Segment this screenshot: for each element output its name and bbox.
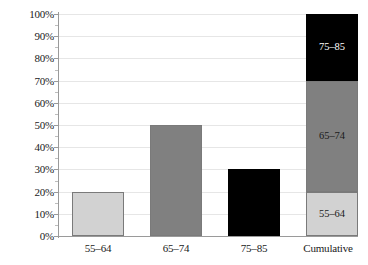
y-tick-30 [54,169,59,170]
bar-segment-label-55-64: 55–64 [319,209,345,220]
bar-75-85 [228,169,280,236]
bar-65-74 [150,125,202,236]
axis-baseline [58,236,358,237]
bar-chart: 75–85 65–74 55–64 100% 90% 80% 70% 60% 5… [0,0,368,265]
y-tick-20 [54,192,59,193]
y-axis-label-100: 100% [8,9,54,20]
y-axis-label-70: 70% [8,76,54,87]
y-tick-90 [54,36,59,37]
x-axis-label-65-74: 65–74 [136,243,216,254]
y-tick-minor-15 [55,203,58,204]
y-tick-minor-65 [55,92,58,93]
y-tick-minor-75 [55,70,58,71]
y-tick-40 [54,147,59,148]
y-tick-minor-95 [55,25,58,26]
bar-cumulative: 75–85 65–74 55–64 [306,14,358,236]
y-tick-minor-85 [55,47,58,48]
y-tick-minor-25 [55,181,58,182]
x-axis-label-75-85: 75–85 [214,243,294,254]
y-axis-label-30: 30% [8,164,54,175]
bar-segment-65-74: 65–74 [306,81,358,192]
bar-55-64 [72,192,124,236]
y-tick-minor-35 [55,158,58,159]
x-axis-label-55-64: 55–64 [58,243,138,254]
y-axis-label-20: 20% [8,187,54,198]
y-tick-70 [54,81,59,82]
y-tick-100 [54,14,59,15]
y-tick-minor-55 [55,114,58,115]
y-tick-0 [54,236,59,237]
bar-segment-55-64: 55–64 [306,192,358,236]
y-axis-label-50: 50% [8,120,54,131]
y-axis-label-60: 60% [8,98,54,109]
plot-area: 75–85 65–74 55–64 [58,14,358,236]
bar-segment-label-75-85: 75–85 [319,42,345,53]
y-tick-minor-5 [55,225,58,226]
x-axis-label-cumulative: Cumulative [288,243,368,254]
y-tick-minor-45 [55,136,58,137]
y-axis-label-40: 40% [8,142,54,153]
bar-segment-label-65-74: 65–74 [319,131,345,142]
y-axis-label-80: 80% [8,53,54,64]
bar-segment-75-85: 75–85 [306,14,358,81]
y-axis-label-90: 90% [8,31,54,42]
y-tick-10 [54,214,59,215]
y-tick-80 [54,58,59,59]
y-tick-60 [54,103,59,104]
y-axis-label-0: 0% [8,231,54,242]
y-axis-label-10: 10% [8,209,54,220]
y-tick-50 [54,125,59,126]
